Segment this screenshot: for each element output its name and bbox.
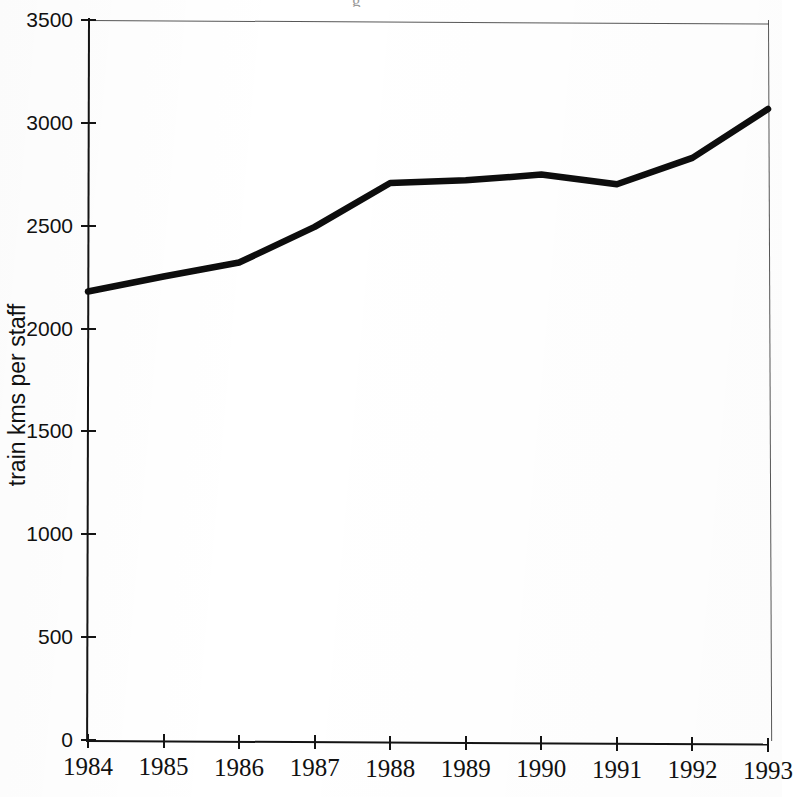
series-line-train-kms-per-staff	[88, 109, 768, 292]
